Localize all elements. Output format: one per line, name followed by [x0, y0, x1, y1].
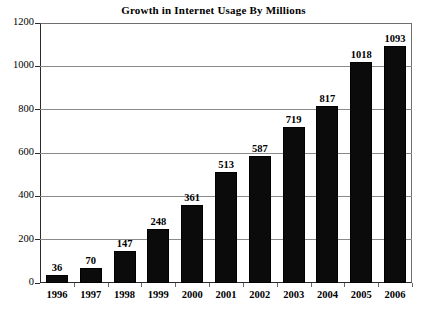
bar	[316, 106, 338, 283]
bar	[283, 127, 305, 283]
x-tick-mark	[311, 283, 312, 287]
x-tick-mark	[141, 283, 142, 287]
bar-value-label: 513	[204, 159, 248, 170]
y-tick-mark	[35, 153, 40, 154]
y-tick-label: 1000	[0, 60, 34, 70]
bar-value-label: 817	[305, 93, 349, 104]
bar	[46, 275, 68, 283]
bar-value-label: 248	[136, 216, 180, 227]
x-tick-mark	[74, 283, 75, 287]
y-tick-mark	[35, 23, 40, 24]
y-tick-label: 400	[0, 190, 34, 200]
bar	[114, 251, 136, 283]
bar	[181, 205, 203, 283]
y-tick-mark	[35, 283, 40, 284]
bar-value-label: 1093	[373, 33, 417, 44]
bar	[147, 229, 169, 283]
x-tick-mark	[378, 283, 379, 287]
bar-value-label: 70	[69, 255, 113, 266]
y-tick-mark	[35, 196, 40, 197]
bar	[384, 46, 406, 283]
x-tick-mark	[175, 283, 176, 287]
bar	[80, 268, 102, 283]
bar-value-label: 361	[170, 192, 214, 203]
y-tick-mark	[35, 239, 40, 240]
chart-container: Growth in Internet Usage By Millions 020…	[0, 0, 427, 311]
bar	[249, 156, 271, 283]
y-tick-label: 600	[0, 147, 34, 157]
x-tick-mark	[108, 283, 109, 287]
x-tick-mark	[412, 283, 413, 287]
bar-value-label: 719	[272, 114, 316, 125]
x-tick-label: 2006	[375, 289, 415, 301]
chart-title: Growth in Internet Usage By Millions	[0, 4, 427, 16]
y-tick-mark	[35, 109, 40, 110]
y-tick-label: 200	[0, 234, 34, 244]
x-tick-mark	[344, 283, 345, 287]
x-tick-mark	[243, 283, 244, 287]
x-tick-mark	[209, 283, 210, 287]
bar-value-label: 147	[103, 238, 147, 249]
y-tick-label: 1200	[0, 17, 34, 27]
bar	[350, 62, 372, 283]
y-tick-label: 0	[0, 277, 34, 287]
y-tick-label: 800	[0, 104, 34, 114]
y-tick-mark	[35, 66, 40, 67]
bar-value-label: 1018	[339, 49, 383, 60]
x-tick-mark	[277, 283, 278, 287]
bar-value-label: 587	[238, 143, 282, 154]
bar	[215, 172, 237, 283]
